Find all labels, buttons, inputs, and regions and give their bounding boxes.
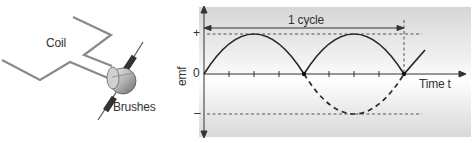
cycle-label: 1 cycle [288, 13, 324, 27]
x-axis-label: Time t [419, 77, 451, 91]
diagram-canvas [0, 0, 472, 143]
y-axis-label: emf [175, 67, 189, 86]
y-tick-minus: – [194, 106, 200, 120]
graph-panel [199, 7, 471, 137]
y-tick-plus: + [193, 26, 200, 40]
crossing-dot [302, 72, 306, 76]
y-tick-zero: 0 [193, 66, 199, 80]
crossing-dot [402, 72, 406, 76]
brushes-label: Brushes [113, 100, 156, 114]
coil-label: Coil [46, 36, 66, 50]
commutator-ring-icon [107, 67, 136, 94]
